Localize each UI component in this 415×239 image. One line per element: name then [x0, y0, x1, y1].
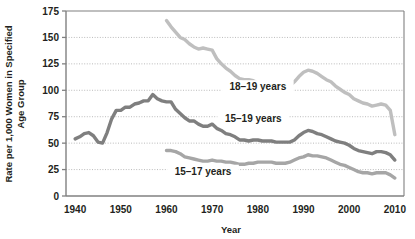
teen-birth-rate-chart: 0255075100125150175 19401950196019701980…: [0, 0, 415, 239]
y-tick-label-175: 175: [42, 6, 59, 17]
y-tick-label-150: 150: [42, 32, 59, 43]
y-axis-title-line2: Age Group: [15, 79, 26, 128]
x-tick-label-1970: 1970: [201, 204, 224, 215]
x-tick-label-1980: 1980: [247, 204, 270, 215]
x-tick-label-1950: 1950: [110, 204, 133, 215]
series-annotation-1: 15–19 years: [225, 113, 282, 124]
x-tick-label-2000: 2000: [338, 204, 361, 215]
y-tick-label-50: 50: [48, 138, 60, 149]
x-tick-label-1940: 1940: [64, 204, 87, 215]
x-axis-title: Year: [221, 224, 241, 235]
chart-canvas: 0255075100125150175 19401950196019701980…: [0, 0, 415, 239]
x-tick-label-2010: 2010: [384, 204, 407, 215]
x-tick-label-1960: 1960: [155, 204, 178, 215]
y-axis-title-line1: Rate per 1,000 Women in Specified: [3, 25, 14, 182]
y-tick-label-25: 25: [48, 164, 60, 175]
y-tick-label-125: 125: [42, 58, 59, 69]
y-tick-label-0: 0: [53, 191, 59, 202]
y-tick-label-100: 100: [42, 85, 59, 96]
series-annotation-2: 15–17 years: [175, 166, 232, 177]
series-annotation-0: 18–19 years: [229, 81, 286, 92]
x-tick-label-1990: 1990: [292, 204, 315, 215]
y-tick-label-75: 75: [48, 111, 60, 122]
